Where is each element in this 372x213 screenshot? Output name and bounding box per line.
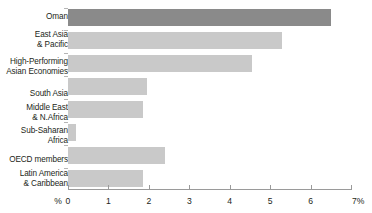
category-tick [64,30,68,31]
bar-east-asia-pacific [68,32,282,49]
x-axis-tick-label: 2 [146,196,151,206]
x-axis-tick-label: 5 [268,196,273,206]
x-axis-tick [189,185,190,190]
x-axis-tick [149,185,150,190]
category-label-east-asia-pacific: East Asia & Pacific [35,30,68,49]
x-axis-tick-label: 3 [187,196,192,206]
bar-south-asia [68,78,147,95]
x-axis-tick [351,185,352,190]
category-label-high-performing-asian-economies: High-Performing Asian Economies [6,57,68,76]
category-label-middle-east-n-africa: Middle East & N.Africa [26,103,68,122]
x-axis-tick [311,185,312,190]
x-axis-tick [68,185,69,190]
bar-sub-saharan-africa [68,124,76,141]
x-axis-unit-prefix: % [54,196,62,206]
plot-area: Oman East Asia & Pacific High-Performing… [0,0,372,213]
category-tick [64,53,68,54]
bar-oman [68,9,331,26]
bar-high-performing-asian-economies [68,55,252,72]
category-label-oman: Oman [46,12,68,22]
x-axis-tick-label: 0 [66,196,71,206]
bar-latin-america-caribbean [68,170,143,187]
x-axis-line [68,189,351,190]
bar-oecd-members [68,147,165,164]
x-axis-tick [270,185,271,190]
x-axis-tick-label: 1 [106,196,111,206]
x-axis-unit-suffix: 7% [352,196,364,206]
category-tick [64,99,68,100]
x-axis-tick-label: 6 [308,196,313,206]
bar-chart: Oman East Asia & Pacific High-Performing… [0,0,372,213]
category-tick [64,168,68,169]
x-axis-tick [108,185,109,190]
category-label-south-asia: South Asia [30,89,68,99]
bar-middle-east-n-africa [68,101,143,118]
category-tick [64,145,68,146]
category-label-latin-america-caribbean: Latin America & Caribbean [20,169,68,188]
category-tick [64,122,68,123]
category-tick [64,76,68,77]
x-axis-tick-label: 4 [227,196,232,206]
category-label-sub-saharan-africa: Sub-Saharan Africa [21,126,68,145]
category-label-oecd-members: OECD members [9,155,68,165]
x-axis-tick [230,185,231,190]
